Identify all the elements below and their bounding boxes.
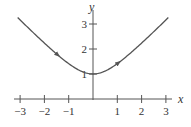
x-axis-label: x (177, 92, 184, 106)
x-tick-label: 3 (163, 105, 169, 117)
x-tick-label: −2 (39, 105, 51, 117)
x-tick-label: 2 (139, 105, 145, 117)
x-tick-label: −3 (14, 105, 26, 117)
chart: −3−2−1123 123 x y (0, 0, 191, 127)
y-axis-label: y (88, 0, 95, 14)
x-ticks: −3−2−1123 (14, 95, 169, 117)
y-tick-label: 3 (82, 18, 88, 30)
y-tick-label: 1 (82, 68, 88, 80)
x-tick-label: 1 (115, 105, 121, 117)
y-ticks: 123 (82, 18, 98, 80)
y-tick-label: 2 (82, 43, 88, 55)
x-tick-label: −1 (63, 105, 75, 117)
